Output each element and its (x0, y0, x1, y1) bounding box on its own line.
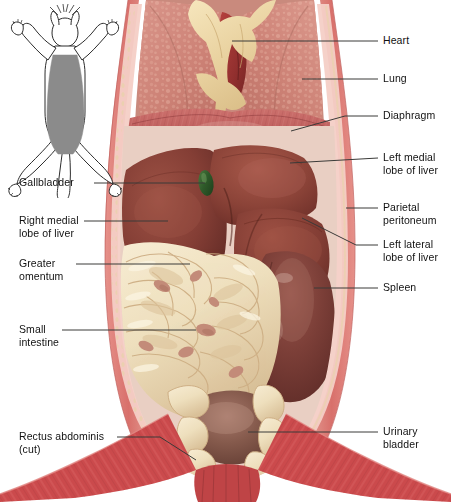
label-spleen: Spleen (383, 281, 416, 294)
label-diaphragm: Diaphragm (383, 109, 435, 122)
label-right-medial-lobe-of-liver: Right medial lobe of liver (19, 214, 79, 239)
label-left-lateral-lobe-of-liver: Left lateral lobe of liver (383, 238, 438, 263)
liver-right-highlight (134, 186, 202, 238)
label-lung: Lung (383, 72, 407, 85)
label-gallbladder: Gallbladder (19, 176, 74, 189)
inset-dissection-field (47, 55, 84, 154)
label-greater-omentum: Greater omentum (19, 257, 63, 282)
liver-lm-highlight (238, 158, 306, 198)
label-rectus-abdominis: Rectus abdominis (cut) (19, 430, 104, 455)
label-left-medial-lobe-of-liver: Left medial lobe of liver (383, 151, 438, 176)
label-parietal-peritoneum: Parietal peritoneum (383, 201, 437, 226)
label-heart: Heart (383, 34, 409, 47)
label-small-intestine: Small intestine (19, 323, 59, 348)
label-urinary-bladder: Urinary bladder (383, 425, 419, 450)
anatomy-figure: Heart Lung Diaphragm Left medial lobe of… (0, 0, 451, 502)
